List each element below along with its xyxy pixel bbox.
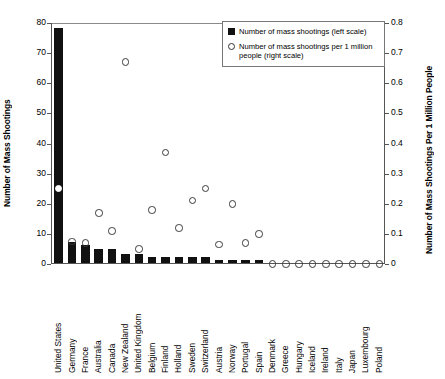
x-axis-label: Norway — [227, 268, 237, 373]
x-axis-label: Hungary — [294, 268, 304, 373]
y-tickmark-left — [47, 83, 51, 84]
y-tick-left-60: 60 — [20, 78, 46, 87]
y-tickmark-right — [385, 264, 389, 265]
data-point-marker — [135, 245, 143, 253]
data-point-marker — [242, 239, 250, 247]
x-axis-label: Germany — [67, 268, 77, 373]
y-tickmark-right — [385, 174, 389, 175]
x-axis-label: United Kingdom — [133, 268, 143, 373]
x-axis-label: Spain — [254, 268, 264, 373]
data-point-marker — [148, 206, 156, 214]
y-axis-title-right: Number of Mass Shootings Per 1 Million P… — [424, 44, 434, 276]
bar — [81, 245, 90, 263]
bar — [108, 249, 117, 263]
data-point-marker — [335, 260, 343, 268]
y-tickmark-right — [385, 53, 389, 54]
data-point-marker — [68, 238, 76, 246]
data-point-marker — [108, 227, 116, 235]
data-point-marker — [229, 200, 237, 208]
y-tick-left-10: 10 — [20, 229, 46, 238]
x-axis-label: France — [80, 268, 90, 373]
data-point-marker — [82, 239, 90, 247]
y-tickmark-left — [47, 53, 51, 54]
y-tick-left-30: 30 — [20, 169, 46, 178]
bar — [241, 260, 250, 263]
x-axis-label: Switzerland — [200, 268, 210, 373]
y-tick-right-0.3: 0.3 — [391, 169, 421, 178]
bar — [135, 254, 144, 263]
y-tick-right-0.5: 0.5 — [391, 108, 421, 117]
y-tickmark-left — [47, 144, 51, 145]
x-axis-label: Iceland — [307, 268, 317, 373]
y-tick-right-0.6: 0.6 — [391, 78, 421, 87]
y-tickmark-right — [385, 113, 389, 114]
y-tick-left-50: 50 — [20, 108, 46, 117]
x-axis-label: United States — [53, 268, 63, 373]
y-tickmark-right — [385, 204, 389, 205]
x-axis-label: Austria — [214, 268, 224, 373]
x-axis-label: Finland — [160, 268, 170, 373]
x-axis-label: Australia — [93, 268, 103, 373]
y-tick-right-0.8: 0.8 — [391, 18, 421, 27]
data-point-marker — [322, 260, 330, 268]
x-axis-label: Japan — [347, 268, 357, 373]
x-axis-label: Denmark — [267, 268, 277, 373]
data-point-marker — [255, 230, 263, 238]
legend-circle-icon — [228, 43, 235, 50]
y-tickmark-right — [385, 83, 389, 84]
y-tick-right-0.1: 0.1 — [391, 229, 421, 238]
data-point-marker — [362, 260, 370, 268]
y-tick-right-0: 0 — [391, 259, 421, 268]
y-tick-left-80: 80 — [20, 18, 46, 27]
bar — [188, 257, 197, 263]
x-axis-label: Sweden — [187, 268, 197, 373]
x-axis-label: Canada — [107, 268, 117, 373]
legend-label-markers: Number of mass shootings per 1 million p… — [239, 42, 379, 61]
y-tickmark-right — [385, 144, 389, 145]
data-point-marker — [175, 224, 183, 232]
bar — [161, 257, 170, 263]
y-tickmark-left — [47, 113, 51, 114]
bar — [201, 257, 210, 263]
x-axis-label: Belgium — [147, 268, 157, 373]
x-axis-label: Poland — [374, 268, 384, 373]
bar — [94, 249, 103, 263]
bar — [121, 254, 130, 263]
legend-item-markers: Number of mass shootings per 1 million p… — [228, 42, 379, 61]
bar — [255, 260, 264, 263]
x-axis-label: Italy — [334, 268, 344, 373]
x-axis-label: Greece — [280, 268, 290, 373]
x-axis-label: Holland — [173, 268, 183, 373]
y-tick-right-0.4: 0.4 — [391, 139, 421, 148]
y-tick-left-0: 0 — [20, 259, 46, 268]
y-tick-right-0.7: 0.7 — [391, 48, 421, 57]
data-point-marker — [95, 209, 103, 217]
y-tick-right-0.2: 0.2 — [391, 199, 421, 208]
legend-square-icon — [228, 28, 235, 35]
chart-figure: Number of Mass Shootings Number of Mass … — [0, 0, 445, 379]
y-tickmark-right — [385, 234, 389, 235]
data-point-marker — [295, 260, 303, 268]
y-tick-left-70: 70 — [20, 48, 46, 57]
x-axis-label: Portugal — [240, 268, 250, 373]
chart-legend: Number of mass shootings (left scale) Nu… — [222, 21, 385, 67]
y-tickmark-left — [47, 204, 51, 205]
data-point-marker — [189, 197, 197, 205]
bar — [175, 257, 184, 263]
data-point-marker — [215, 241, 223, 249]
data-point-marker — [122, 58, 130, 66]
y-tickmark-right — [385, 23, 389, 24]
bar — [148, 257, 157, 263]
x-axis-label: Ireland — [320, 268, 330, 373]
y-axis-title-left: Number of Mass Shootings — [2, 58, 12, 248]
y-tick-left-20: 20 — [20, 199, 46, 208]
data-point-marker — [349, 260, 357, 268]
y-tickmark-left — [47, 264, 51, 265]
y-tickmark-left — [47, 234, 51, 235]
data-point-marker — [376, 260, 384, 268]
bar — [228, 260, 237, 263]
legend-item-bars: Number of mass shootings (left scale) — [228, 27, 379, 37]
bar — [215, 260, 224, 263]
bar — [68, 242, 77, 263]
x-axis-label: New Zealand — [120, 268, 130, 373]
